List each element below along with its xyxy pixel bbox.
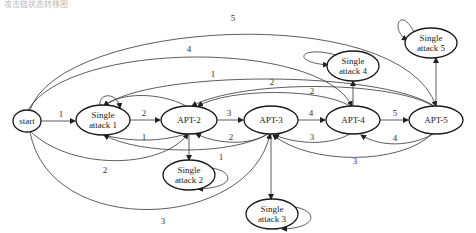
node-start: start xyxy=(13,110,41,132)
node-label: attack 4 xyxy=(339,66,368,76)
edge-weight-label: 3 xyxy=(353,156,358,166)
edge-weight-label: 1 xyxy=(142,132,147,142)
node-sa3: Singleattack 3 xyxy=(246,199,298,229)
node-apt2: APT-2 xyxy=(161,106,217,134)
edge-path xyxy=(273,134,432,157)
edge-weight-label: 1 xyxy=(211,69,216,79)
diagram-svg: 攻击链状态转移图 123455412212123343 startSinglea… xyxy=(0,0,476,233)
edge-apt5-to-sa1: 1 xyxy=(104,69,434,106)
node-label: attack 2 xyxy=(175,175,203,185)
edge-path xyxy=(28,57,352,110)
edge-weight-label: 4 xyxy=(393,133,398,143)
edge-weight-label: 5 xyxy=(393,108,398,118)
node-apt5: APT-5 xyxy=(409,106,463,134)
edge-apt4-to-apt5: 5 xyxy=(380,108,408,120)
node-label: Single xyxy=(91,110,114,120)
edge-weight-label: 2 xyxy=(103,165,108,175)
edge-weight-label: 3 xyxy=(310,132,315,142)
edge-path xyxy=(198,93,350,107)
edge-path xyxy=(30,132,270,210)
state-transition-diagram: 攻击链状态转移图 123455412212123343 startSinglea… xyxy=(0,0,476,233)
node-sa5: Singleattack 5 xyxy=(405,28,457,58)
edge-apt3-to-apt2: 2 xyxy=(196,132,268,142)
node-label: Single xyxy=(177,165,200,175)
node-label: Single xyxy=(419,33,442,43)
node-label: start xyxy=(19,116,35,126)
edge-weight-label: 5 xyxy=(231,13,236,23)
node-label: APT-4 xyxy=(341,115,365,125)
edge-weight-label: 1 xyxy=(219,152,224,162)
edge-sa1-to-apt2: 2 xyxy=(130,108,160,120)
edge-path xyxy=(104,96,186,107)
node-label: APT-5 xyxy=(424,115,448,125)
node-label: attack 3 xyxy=(258,214,287,224)
node-apt3: APT-3 xyxy=(244,106,298,134)
edge-weight-label: 3 xyxy=(161,216,166,226)
edge-apt4-to-apt3: 3 xyxy=(274,132,350,142)
edge-weight-label: 2 xyxy=(310,86,315,96)
edge-weight-label: 3 xyxy=(227,108,232,118)
node-label: APT-3 xyxy=(259,115,283,125)
edge-weight-label: 2 xyxy=(270,77,275,87)
edge-apt3-to-apt4: 4 xyxy=(298,108,325,120)
edge-weight-label: 4 xyxy=(309,108,314,118)
edge-apt2-to-apt3: 3 xyxy=(217,108,243,120)
node-apt4: APT-4 xyxy=(326,106,380,134)
edge-apt2-to-sa1 xyxy=(104,96,186,107)
nodes-layer: startSingleattack 1APT-2APT-3APT-4APT-5S… xyxy=(13,28,463,229)
edge-weight-label: 4 xyxy=(187,44,192,54)
edge-apt5-to-apt3: 3 xyxy=(273,134,432,166)
node-label: attack 5 xyxy=(417,43,446,53)
edge-start-to-apt3: 3 xyxy=(30,132,270,226)
edge-path xyxy=(30,131,188,161)
node-label: APT-2 xyxy=(177,115,201,125)
edge-weight-label: 2 xyxy=(229,132,234,142)
node-sa2: Singleattack 2 xyxy=(163,160,215,190)
edge-start-to-apt4: 4 xyxy=(28,44,352,110)
node-sa1: Singleattack 1 xyxy=(76,105,130,135)
edge-start-to-sa1: 1 xyxy=(41,109,75,121)
edge-weight-label: 2 xyxy=(142,108,147,118)
node-label: Single xyxy=(260,204,283,214)
edge-weight-label: 1 xyxy=(59,109,64,119)
node-label: attack 1 xyxy=(89,120,117,130)
node-sa4: Singleattack 4 xyxy=(327,51,379,81)
edge-apt5-to-apt4: 4 xyxy=(361,133,433,144)
figure-caption: 攻击链状态转移图 xyxy=(4,0,68,9)
node-label: Single xyxy=(341,56,364,66)
